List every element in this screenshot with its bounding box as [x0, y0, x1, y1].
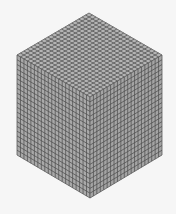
grid-cube-illustration [0, 0, 176, 214]
figure-canvas [0, 0, 176, 214]
